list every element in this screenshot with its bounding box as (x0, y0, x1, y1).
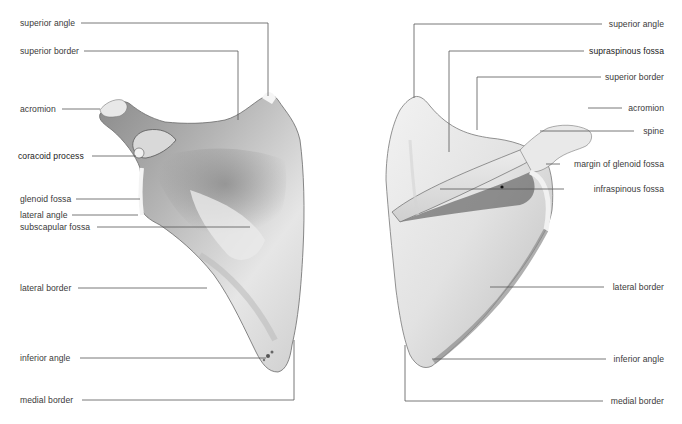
label-anterior-lateral-angle: lateral angle (20, 210, 67, 220)
posterior-scapula (386, 96, 592, 367)
label-anterior-lateral-border: lateral border (20, 283, 71, 293)
label-posterior-superior-border: superior border (605, 72, 664, 82)
label-posterior-medial-border: medial border (611, 396, 664, 406)
label-posterior-supraspinous-fossa: supraspinous fossa (589, 46, 664, 56)
label-posterior-margin-of-glenoid-fossa: margin of glenoid fossa (574, 159, 664, 169)
scapula-illustration (0, 0, 682, 424)
label-anterior-medial-border: medial border (20, 395, 73, 405)
label-posterior-lateral-border: lateral border (613, 282, 664, 292)
label-posterior-acromion: acromion (628, 103, 664, 113)
label-posterior-infraspinous-fossa: infraspinous fossa (594, 184, 664, 194)
label-posterior-inferior-angle: inferior angle (614, 354, 664, 364)
scapula-diagram: superior angle superior border acromion … (0, 0, 682, 424)
label-anterior-superior-border: superior border (20, 46, 79, 56)
label-anterior-coracoid-process: coracoid process (18, 151, 84, 161)
anterior-scapula (100, 92, 304, 372)
label-anterior-inferior-angle: inferior angle (20, 353, 70, 363)
label-anterior-subscapular-fossa: subscapular fossa (20, 222, 90, 232)
label-anterior-superior-angle: superior angle (20, 18, 75, 28)
label-posterior-spine: spine (643, 126, 664, 136)
label-anterior-acromion: acromion (20, 104, 56, 114)
label-anterior-glenoid-fossa: glenoid fossa (20, 194, 71, 204)
label-posterior-superior-angle: superior angle (609, 19, 664, 29)
